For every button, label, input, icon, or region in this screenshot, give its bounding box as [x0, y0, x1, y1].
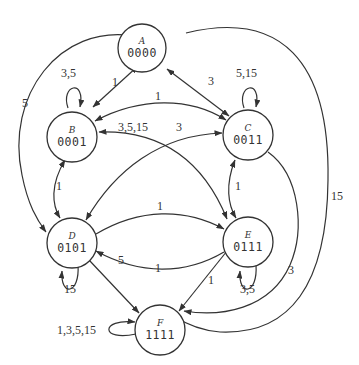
edge-b-c	[95, 103, 226, 121]
label-e-e: 3,5	[240, 282, 255, 296]
node-a: A 0000	[118, 24, 166, 72]
state-diagram: 1 3 5 15 3,5 1 3,5,15 1 5,15 3 1 3 1 1 1…	[0, 0, 359, 365]
node-b-name: B	[68, 125, 76, 135]
node-a-code: 0000	[127, 46, 157, 60]
label-c-e: 1	[235, 179, 241, 193]
label-f-f: 1,3,5,15	[57, 323, 96, 337]
node-e: E 0111	[223, 217, 273, 267]
label-e-f: 1	[208, 273, 214, 287]
edge-b-b	[66, 88, 80, 108]
node-b-code: 0001	[57, 135, 87, 149]
label-a-f: 15	[331, 189, 343, 203]
label-c-c: 5,15	[236, 66, 257, 80]
node-e-code: 0111	[233, 240, 263, 254]
node-a-name: A	[138, 36, 146, 46]
node-f-code: 1111	[145, 328, 175, 342]
edge-a-c	[167, 69, 229, 116]
node-d-name: D	[67, 231, 75, 241]
edge-labels: 1 3 5 15 3,5 1 3,5,15 1 5,15 3 1 3 1 1 1…	[22, 66, 343, 337]
node-c: C 0011	[223, 110, 273, 160]
label-d-f: 5	[118, 253, 124, 267]
label-b-d: 1	[56, 179, 62, 193]
node-c-code: 0011	[233, 133, 263, 147]
label-a-c: 3	[208, 74, 214, 88]
edge-b-e	[99, 132, 227, 219]
node-f: F 1111	[135, 305, 185, 355]
label-d-d: 15	[64, 282, 76, 296]
node-b: B 0001	[47, 112, 97, 162]
label-b-e: 3,5,15	[118, 120, 148, 134]
edge-c-c	[242, 88, 256, 108]
label-c-d: 3	[176, 120, 182, 134]
node-d: D 0101	[47, 218, 97, 268]
node-c-name: C	[245, 123, 252, 133]
label-b-c: 1	[155, 89, 161, 103]
label-c-f: 3	[288, 263, 294, 277]
label-a-b: 1	[112, 75, 118, 89]
node-f-name: F	[156, 318, 164, 328]
node-e-name: E	[244, 230, 252, 240]
edge-e-f	[179, 246, 231, 311]
edge-d-f	[89, 260, 139, 313]
label-d-e: 1	[157, 199, 163, 213]
label-a-d: 5	[22, 96, 28, 110]
label-e-d: 1	[155, 261, 161, 275]
edge-d-e	[96, 214, 224, 234]
node-d-code: 0101	[57, 241, 87, 255]
label-b-b: 3,5	[61, 66, 76, 80]
edge-f-f	[109, 322, 136, 336]
edge-c-d	[86, 133, 222, 220]
